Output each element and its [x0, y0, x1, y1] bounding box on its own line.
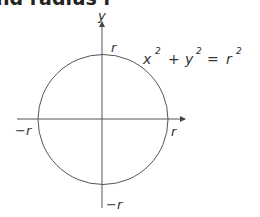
eq-y-exp: 2: [196, 46, 202, 56]
top-r-label: r: [111, 40, 118, 55]
eq-equals: =: [207, 51, 219, 67]
left-r-label: −r: [15, 123, 33, 138]
circle-diagram: y r r −r −r x 2 + y 2 = r 2: [0, 0, 260, 217]
eq-x-exp: 2: [155, 46, 161, 56]
eq-r: r: [226, 51, 233, 67]
eq-x: x: [142, 51, 152, 67]
y-axis-label: y: [97, 8, 106, 23]
bottom-r-label: −r: [106, 197, 124, 212]
right-r-label: r: [171, 124, 178, 139]
eq-y: y: [184, 51, 194, 67]
circle-equation: x 2 + y 2 = r 2: [142, 46, 242, 67]
eq-r-exp: 2: [236, 46, 242, 56]
eq-plus: +: [168, 51, 180, 67]
